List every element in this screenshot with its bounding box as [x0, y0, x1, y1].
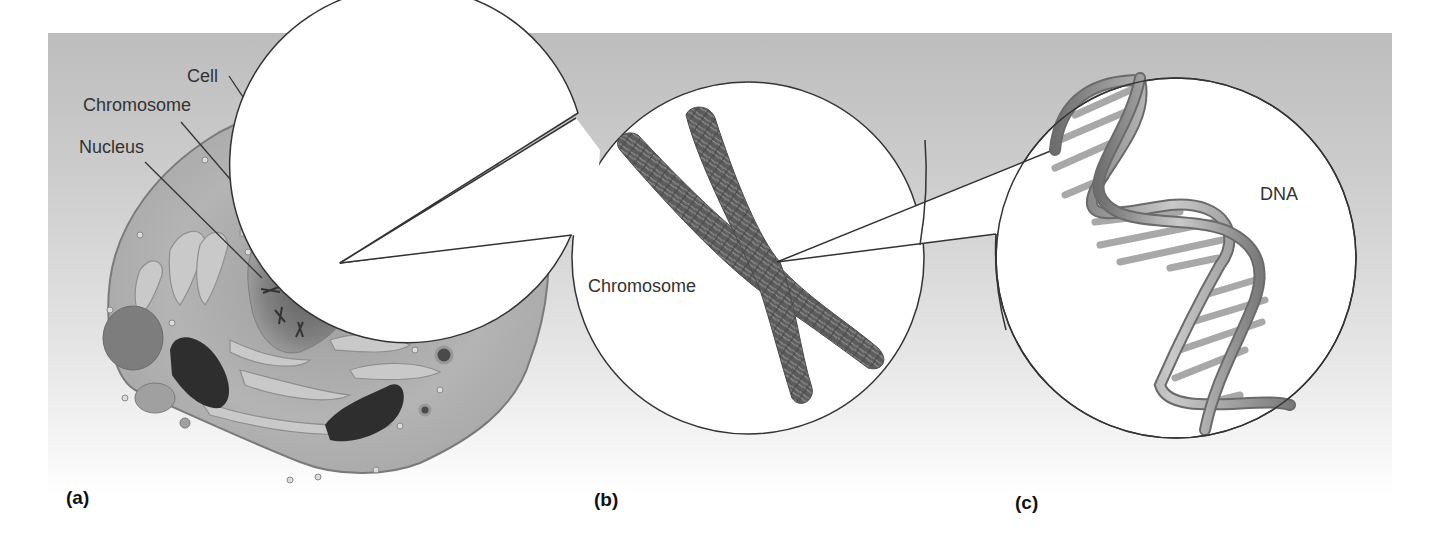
- label-chromosome-cell: Chromosome: [83, 95, 191, 116]
- label-nucleus: Nucleus: [79, 137, 144, 158]
- label-dna: DNA: [1260, 184, 1298, 205]
- label-chromosome: Chromosome: [588, 276, 696, 297]
- panel-label-a: (a): [66, 487, 89, 509]
- panel-label-b: (b): [594, 489, 618, 511]
- dna-magnified-circle: [996, 78, 1356, 438]
- label-cell: Cell: [187, 66, 218, 87]
- panel-label-c: (c): [1015, 492, 1038, 514]
